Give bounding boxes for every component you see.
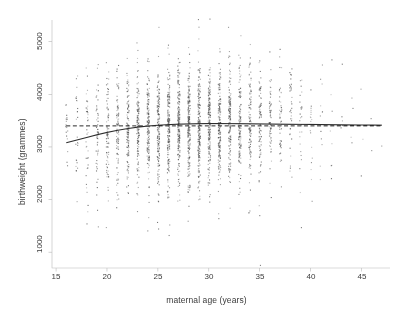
- plot-canvas: [0, 0, 413, 310]
- x-axis-title: maternal age (years): [0, 295, 413, 305]
- x-tick-label: 30: [205, 272, 214, 281]
- x-tick-label: 20: [103, 272, 112, 281]
- y-tick-label: 4000: [35, 83, 44, 101]
- x-tick-label: 15: [52, 272, 61, 281]
- x-tick-label: 25: [154, 272, 163, 281]
- x-tick-label: 45: [358, 272, 367, 281]
- y-tick-label: 3000: [35, 135, 44, 153]
- x-tick-label: 35: [256, 272, 265, 281]
- y-tick-label: 1000: [35, 235, 44, 253]
- y-tick-label: 5000: [35, 32, 44, 50]
- birthweight-scatter-figure: 15 20 25 30 35 40 45 1000 2000 3000 4000…: [0, 0, 413, 310]
- y-tick-label: 2000: [35, 185, 44, 203]
- y-axis-title: birthweight (grammes): [17, 118, 27, 205]
- x-tick-label: 40: [307, 272, 316, 281]
